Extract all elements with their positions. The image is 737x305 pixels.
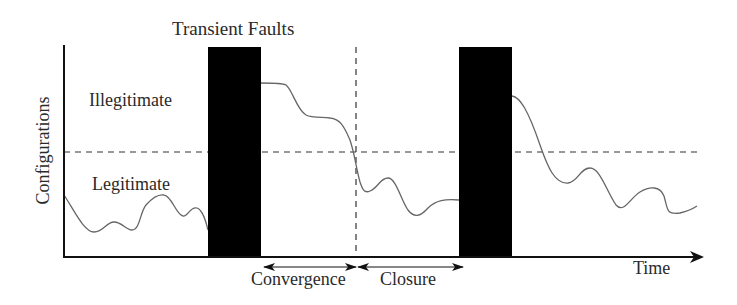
configuration-curve-segment-1 xyxy=(64,195,208,232)
diagram-canvas xyxy=(0,0,737,305)
transient-fault-bar-1 xyxy=(208,47,261,257)
illegitimate-region-label: Illegitimate xyxy=(89,90,172,111)
convergence-label: Convergence xyxy=(251,269,346,290)
transient-fault-bar-2 xyxy=(459,47,512,257)
x-axis-label: Time xyxy=(633,258,670,279)
configuration-curve-segment-3 xyxy=(512,96,697,213)
configuration-curve-segment-2 xyxy=(261,83,459,215)
y-axis-label: Configurations xyxy=(33,96,54,206)
closure-label: Closure xyxy=(380,269,436,290)
diagram-title: Transient Faults xyxy=(172,18,294,40)
legitimate-region-label: Legitimate xyxy=(92,174,170,195)
